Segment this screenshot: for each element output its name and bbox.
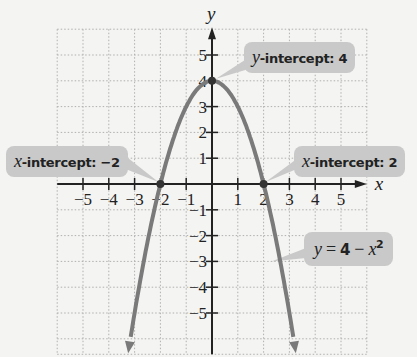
callout-text: -intercept: −2 [22,155,120,170]
callout-text: -intercept: 4 [260,51,347,66]
svg-text:−1: −1 [189,201,207,220]
equation-label: y = 4 − x2 [304,232,393,266]
svg-text:1: 1 [234,190,243,209]
svg-text:−3: −3 [126,190,144,209]
svg-text:5: 5 [337,190,346,209]
eq-minus: − [350,239,368,259]
callout-x-intercept-left: x-intercept: −2 [6,146,128,177]
var-x: x [14,151,22,171]
svg-text:−5: −5 [74,190,92,209]
var-x: x [302,151,310,171]
eq-exponent: 2 [376,238,383,251]
callout-y-intercept: y-intercept: 4 [244,42,355,73]
eq-y: y [314,239,322,259]
eq-four: 4 [340,241,350,259]
svg-text:−2: −2 [189,227,207,246]
callout-x-intercept-right: x-intercept: 2 [294,146,405,177]
eq-equals: = [322,239,340,259]
svg-text:1: 1 [199,149,208,168]
svg-text:−5: −5 [189,304,207,323]
callout-text: -intercept: 2 [310,155,397,170]
svg-text:2: 2 [199,123,208,142]
var-y: y [252,47,260,67]
svg-text:y: y [205,3,216,24]
svg-text:−3: −3 [189,252,207,271]
svg-text:−4: −4 [100,190,119,209]
svg-text:5: 5 [199,46,208,65]
svg-text:3: 3 [199,98,208,117]
svg-text:−4: −4 [189,278,208,297]
eq-x: x [368,239,376,259]
svg-text:4: 4 [311,190,320,209]
svg-text:3: 3 [285,190,294,209]
